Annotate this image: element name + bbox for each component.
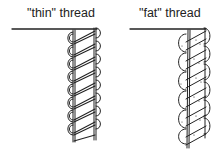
thread-diagrams — [0, 0, 220, 154]
thin-thread-drawing — [12, 28, 101, 142]
fat-thread-drawing — [130, 28, 210, 148]
